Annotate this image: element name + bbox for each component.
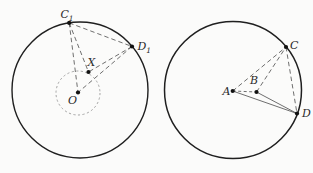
point-label-C1: C1 xyxy=(60,8,73,23)
figure-canvas: C1D1XOABCD xyxy=(0,0,313,173)
left-circle-figure: C1D1XO xyxy=(12,8,151,158)
segment-A-D xyxy=(233,91,297,114)
segment-B-D xyxy=(257,92,298,114)
point-dot-D xyxy=(295,111,299,115)
point-label-X: X xyxy=(87,56,97,69)
segment-C-D xyxy=(286,47,297,114)
point-dot-C xyxy=(284,45,288,49)
segment-B-C xyxy=(257,47,287,92)
point-dot-X xyxy=(86,70,90,74)
point-label-A: A xyxy=(222,85,231,98)
point-dot-D1 xyxy=(130,44,134,48)
point-dot-A xyxy=(231,89,235,93)
segment-D1-O xyxy=(78,47,132,93)
point-label-C: C xyxy=(290,39,299,52)
outer-circle xyxy=(12,22,148,158)
point-label-O: O xyxy=(68,94,77,107)
segment-A-C xyxy=(233,47,286,91)
point-label-B: B xyxy=(249,74,258,87)
point-label-D1: D1 xyxy=(137,40,152,55)
segment-C1-D1 xyxy=(69,23,132,47)
point-label-D: D xyxy=(301,107,311,120)
right-circle-figure: ABCD xyxy=(165,22,312,159)
point-dot-B xyxy=(254,90,258,94)
geometry-diagram: C1D1XOABCD xyxy=(0,0,313,173)
